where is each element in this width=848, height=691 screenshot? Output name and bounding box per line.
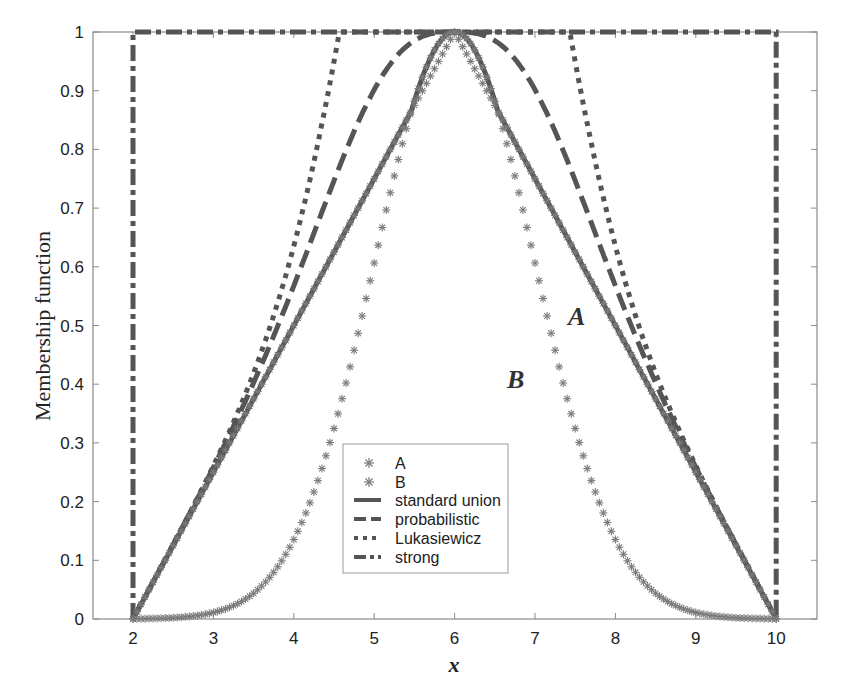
b-marker (619, 550, 627, 558)
x-tick-label: 6 (450, 629, 459, 648)
b-marker (623, 557, 631, 565)
a-marker (137, 600, 145, 608)
a-marker (141, 593, 149, 601)
a-marker (632, 358, 640, 366)
a-marker (246, 402, 254, 410)
a-marker (439, 50, 447, 58)
x-axis-label: x (448, 652, 460, 677)
a-marker (688, 461, 696, 469)
b-marker (326, 438, 334, 446)
a-marker (402, 116, 410, 124)
a-marker (672, 432, 680, 440)
b-marker (575, 438, 583, 446)
b-marker (603, 518, 611, 526)
a-marker (736, 549, 744, 557)
a-marker (165, 549, 173, 557)
b-marker (294, 527, 302, 535)
y-tick-label: 0.4 (60, 375, 84, 394)
b-marker (418, 73, 426, 81)
a-marker (551, 211, 559, 219)
a-marker (250, 395, 258, 403)
curve-label-b: B (506, 365, 524, 394)
a-marker (282, 336, 290, 344)
a-marker (254, 388, 262, 396)
b-marker (394, 156, 402, 164)
a-marker (708, 498, 716, 506)
a-marker (169, 542, 177, 550)
a-marker (575, 255, 583, 263)
a-marker (627, 351, 635, 359)
x-tick-label: 2 (128, 629, 137, 648)
a-marker (479, 79, 487, 87)
a-marker (258, 380, 266, 388)
y-tick-label: 0.1 (60, 551, 84, 570)
b-marker (314, 477, 322, 485)
a-marker (205, 476, 213, 484)
a-marker (306, 292, 314, 300)
x-tick-label: 5 (369, 629, 378, 648)
a-marker (230, 432, 238, 440)
a-marker (611, 322, 619, 330)
a-marker (531, 175, 539, 183)
b-marker (539, 294, 547, 302)
a-marker (270, 358, 278, 366)
b-marker (475, 54, 483, 62)
a-marker (201, 483, 209, 491)
a-marker (242, 410, 250, 418)
a-marker (563, 233, 571, 241)
a-marker (696, 476, 704, 484)
b-marker (772, 615, 780, 623)
a-marker (668, 424, 676, 432)
a-marker (519, 153, 527, 161)
b-marker (370, 259, 378, 267)
star-marker-icon (364, 477, 374, 487)
a-marker (346, 219, 354, 227)
a-marker (225, 439, 233, 447)
a-marker (302, 299, 310, 307)
b-marker (519, 206, 527, 214)
a-marker (591, 285, 599, 293)
b-marker (306, 499, 314, 507)
b-marker (406, 110, 414, 118)
a-marker (262, 373, 270, 381)
a-marker (607, 314, 615, 322)
a-marker (418, 87, 426, 95)
y-tick-label: 0.8 (60, 140, 84, 159)
a-marker (499, 116, 507, 124)
a-marker (221, 446, 229, 454)
a-marker (660, 410, 668, 418)
a-marker (728, 534, 736, 542)
b-marker (463, 35, 471, 43)
a-marker (712, 505, 720, 513)
x-tick-label: 8 (611, 629, 620, 648)
x-tick-label: 7 (530, 629, 539, 648)
b-marker (571, 424, 579, 432)
a-marker (595, 292, 603, 300)
x-tick-label: 3 (209, 629, 218, 648)
a-marker (652, 395, 660, 403)
b-marker (495, 110, 503, 118)
legend-label-strong: strong (395, 549, 439, 566)
a-marker (503, 123, 511, 131)
b-marker (274, 563, 282, 571)
legend-label-a: A (395, 455, 406, 472)
b-marker (591, 488, 599, 496)
b-marker (523, 223, 531, 231)
x-tick-label: 10 (767, 629, 786, 648)
a-marker (700, 483, 708, 491)
b-marker (282, 550, 290, 558)
b-marker (615, 543, 623, 551)
b-marker (555, 363, 563, 371)
b-marker (599, 509, 607, 517)
y-tick-label: 0.5 (60, 317, 84, 336)
a-marker (567, 241, 575, 249)
a-marker (676, 439, 684, 447)
b-marker (266, 573, 274, 581)
a-marker (177, 527, 185, 535)
a-marker (217, 454, 225, 462)
a-marker (197, 490, 205, 498)
a-marker (238, 417, 246, 425)
a-marker (390, 138, 398, 146)
a-marker (764, 600, 772, 608)
y-tick-label: 0.3 (60, 434, 84, 453)
